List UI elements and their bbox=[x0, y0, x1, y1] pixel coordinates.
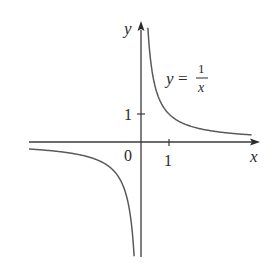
origin-label: 0 bbox=[124, 147, 132, 164]
equation-denominator: x bbox=[197, 80, 205, 95]
equation-lhs: y bbox=[164, 69, 174, 88]
y-axis-label: y bbox=[122, 19, 132, 38]
x-tick-label-1: 1 bbox=[164, 152, 172, 169]
x-axis-label: x bbox=[249, 147, 258, 166]
equation-annotation: y = 1 x bbox=[164, 61, 208, 95]
equation-equals: = bbox=[178, 69, 188, 88]
equation-numerator: 1 bbox=[198, 61, 205, 76]
curve-negative-branch bbox=[29, 149, 134, 256]
y-axis-arrow-icon bbox=[138, 21, 145, 31]
hyperbola-plot: y x 0 1 1 y = 1 x bbox=[0, 0, 276, 271]
y-tick-label-1: 1 bbox=[124, 106, 132, 123]
